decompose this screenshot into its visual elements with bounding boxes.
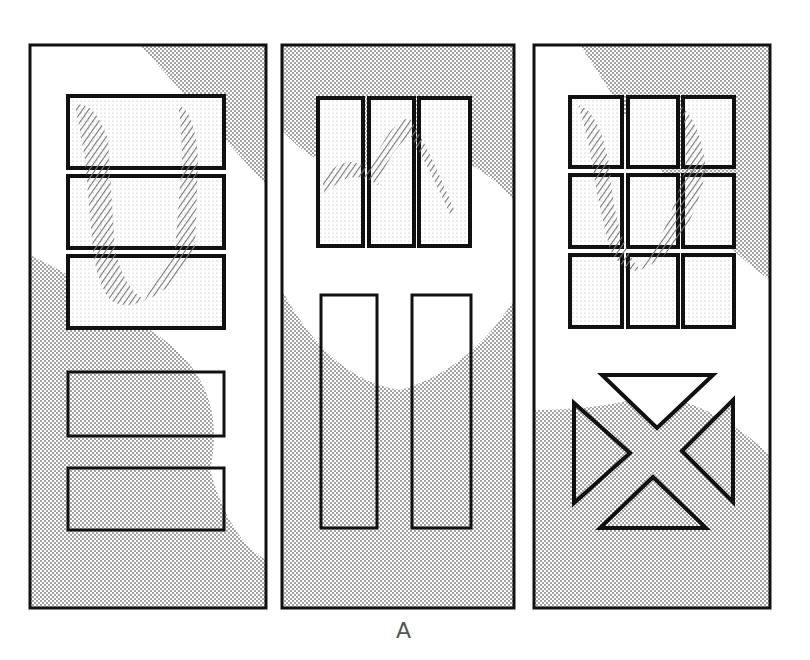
door-illustration: [0, 0, 810, 660]
center-door: [282, 45, 514, 608]
right-door: [534, 45, 770, 608]
glass-lites: [68, 96, 224, 328]
glass-lites: [318, 98, 470, 246]
figure-caption: A: [396, 618, 411, 643]
glass-grid: [570, 97, 734, 327]
left-door: [30, 45, 266, 608]
